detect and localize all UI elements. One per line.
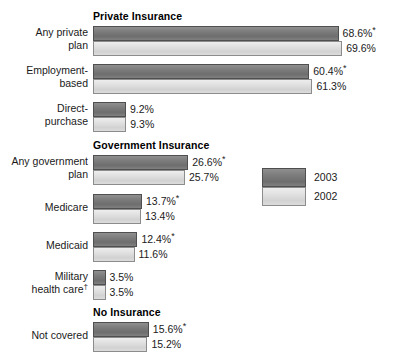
category-label-line1: Medicare	[45, 201, 88, 213]
bar-any-government-plan-2002	[93, 170, 185, 185]
bar-value-medicaid-2002: 11.6%	[135, 247, 168, 262]
bar-value-not-covered-2003: 15.6%*	[149, 322, 186, 337]
legend-label-2003: 2003	[314, 168, 337, 187]
bar-value-text: 9.3%	[130, 118, 154, 130]
legend-swatch-2002	[262, 187, 306, 206]
bar-value-direct-purchase-2002: 9.3%	[126, 117, 154, 132]
bar-value-text: 15.2%	[151, 338, 181, 350]
bar-employment-based-2002	[93, 79, 312, 94]
bar-value-text: 11.6%	[139, 248, 168, 260]
category-label-line2: plan	[68, 168, 88, 180]
bar-value-employment-based-2002: 61.3%	[312, 79, 346, 94]
bar-direct-purchase-2003	[93, 102, 126, 117]
bar-value-not-covered-2002: 15.2%	[147, 337, 181, 352]
significance-star: *	[176, 193, 180, 203]
bar-not-covered-2002	[93, 337, 147, 352]
bar-value-text: 13.7%	[146, 195, 176, 207]
bar-value-text: 61.3%	[316, 80, 346, 92]
bar-medicaid-2002	[93, 247, 135, 262]
category-label-direct-purchase: Direct- purchase	[0, 102, 88, 127]
bar-medicaid-2003	[93, 232, 137, 247]
chart-legend: 2003 2002	[262, 168, 372, 210]
category-label-line1: Any private	[35, 26, 88, 38]
category-label-medicare: Medicare	[0, 201, 88, 214]
category-label-employment-based: Employment- based	[0, 64, 88, 89]
bar-value-employment-based-2003: 60.4%*	[309, 64, 346, 79]
legend-swatch-group	[262, 168, 306, 206]
footnote-dagger: †	[84, 281, 88, 290]
section-header-no-insurance: No Insurance	[93, 306, 161, 318]
bar-value-text: 12.4%	[141, 233, 171, 245]
bar-value-any-private-plan-2002: 69.6%	[342, 41, 376, 56]
category-label-line2: health care	[32, 283, 84, 295]
bar-value-text: 25.7%	[189, 171, 219, 183]
significance-star: *	[171, 231, 175, 241]
bar-military-health-care-2002	[93, 285, 106, 300]
chart-figure: Private Insurance Any private plan 68.6%…	[0, 0, 393, 360]
category-label-any-government-plan: Any government plan	[0, 155, 88, 180]
bar-value-text: 9.2%	[130, 103, 154, 115]
category-label-line1: Direct-	[57, 102, 88, 114]
bar-military-health-care-2003	[93, 270, 106, 285]
bar-value-text: 60.4%	[313, 65, 343, 77]
bar-value-direct-purchase-2003: 9.2%	[126, 102, 154, 117]
significance-star: *	[372, 25, 376, 35]
bar-value-text: 68.6%	[343, 27, 373, 39]
category-label-not-covered: Not covered	[0, 329, 88, 342]
bar-value-any-government-plan-2003: 26.6%*	[188, 155, 225, 170]
bar-value-medicare-2003: 13.7%*	[142, 194, 179, 209]
legend-label-2002: 2002	[314, 187, 337, 206]
bar-value-text: 3.5%	[110, 286, 134, 298]
category-label-line1: Medicaid	[46, 239, 88, 251]
bar-employment-based-2003	[93, 64, 309, 79]
category-label-military-health-care: Military health care†	[0, 270, 88, 295]
bar-not-covered-2003	[93, 322, 149, 337]
bar-value-text: 13.4%	[145, 210, 175, 222]
bar-value-text: 26.6%	[192, 156, 222, 168]
bar-any-government-plan-2003	[93, 155, 188, 170]
bar-value-text: 69.6%	[346, 42, 376, 54]
category-label-line2: based	[59, 77, 88, 89]
bar-medicare-2002	[93, 209, 141, 224]
bar-value-military-health-care-2002: 3.5%	[106, 285, 134, 300]
category-label-line1: Employment-	[26, 64, 88, 76]
bar-value-text: 15.6%	[153, 323, 183, 335]
bar-value-any-government-plan-2002: 25.7%	[185, 170, 219, 185]
bar-value-medicare-2002: 13.4%	[141, 209, 175, 224]
bar-value-medicaid-2003: 12.4%*	[137, 232, 174, 247]
bar-value-any-private-plan-2003: 68.6%*	[339, 26, 376, 41]
bar-value-text: 3.5%	[110, 271, 134, 283]
significance-star: *	[343, 63, 347, 73]
category-label-any-private-plan: Any private plan	[0, 26, 88, 51]
category-label-line1: Any government	[12, 155, 88, 167]
section-header-government-insurance: Government Insurance	[93, 139, 209, 151]
category-label-line2: purchase	[45, 115, 88, 127]
bar-any-private-plan-2002	[93, 41, 342, 56]
legend-swatch-2003	[262, 168, 306, 187]
bar-direct-purchase-2002	[93, 117, 126, 132]
bar-value-military-health-care-2003: 3.5%	[106, 270, 134, 285]
category-label-medicaid: Medicaid	[0, 239, 88, 252]
category-label-line1: Not covered	[31, 329, 88, 341]
category-label-line2: plan	[68, 39, 88, 51]
section-header-private-insurance: Private Insurance	[93, 10, 182, 22]
bar-medicare-2003	[93, 194, 142, 209]
bar-any-private-plan-2003	[93, 26, 339, 41]
significance-star: *	[183, 321, 187, 331]
significance-star: *	[222, 154, 226, 164]
